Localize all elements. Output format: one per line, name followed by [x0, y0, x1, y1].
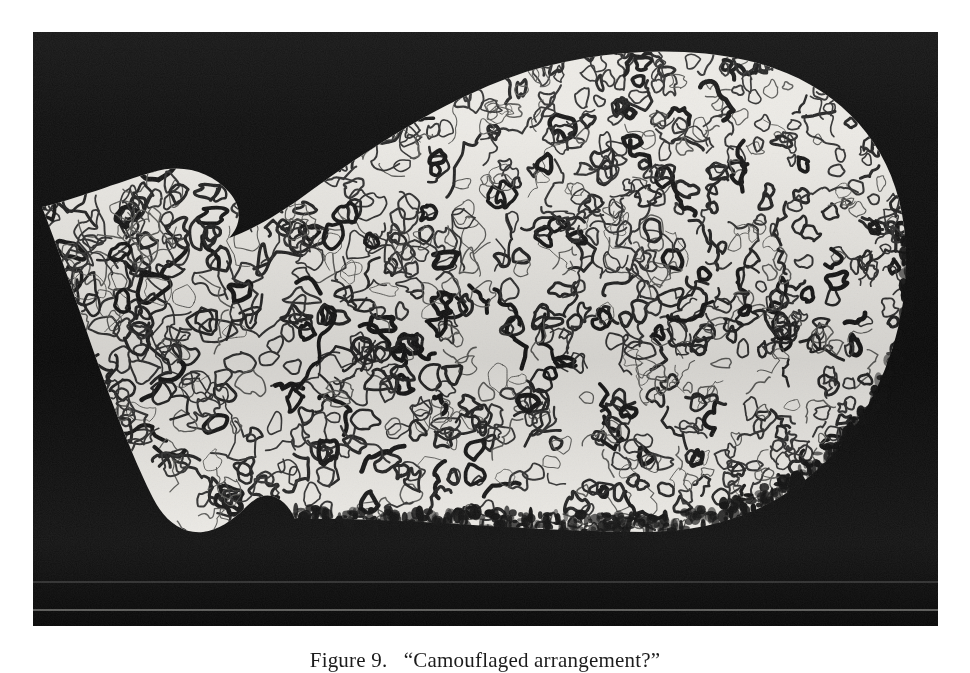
figure-caption-label: Figure 9. — [310, 648, 388, 672]
leaf-artwork — [33, 32, 938, 626]
figure-caption-title: “Camouflaged arrangement?” — [404, 648, 660, 672]
film-grain — [33, 32, 938, 626]
figure-photograph — [33, 32, 938, 626]
figure-caption: Figure 9. “Camouflaged arrangement?” — [0, 648, 970, 673]
